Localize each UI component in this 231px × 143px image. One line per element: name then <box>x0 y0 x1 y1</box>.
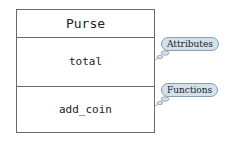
functions-callout-tail-icon <box>152 95 172 109</box>
function-add-coin: add_coin <box>59 103 112 116</box>
class-name: Purse <box>17 10 154 38</box>
attributes-callout-tail-icon <box>152 49 172 63</box>
class-box: Purse total add_coin <box>16 9 155 133</box>
attributes-section: total <box>17 37 154 87</box>
attribute-total: total <box>69 55 102 68</box>
functions-section: add_coin <box>17 86 154 133</box>
